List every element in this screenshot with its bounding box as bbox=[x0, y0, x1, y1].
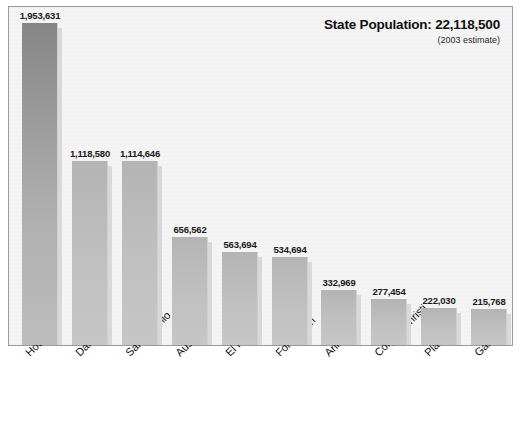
bar-rect[interactable] bbox=[421, 308, 457, 345]
bar-rect[interactable] bbox=[122, 161, 158, 345]
bar-arlington[interactable]: 332,969 bbox=[321, 290, 362, 345]
plot-area: State Population: 22,118,500 (2003 estim… bbox=[8, 6, 513, 346]
bar-value-label: 332,969 bbox=[323, 277, 356, 288]
bar-corpus-christi[interactable]: 277,454 bbox=[371, 299, 412, 345]
bar-value-label: 277,454 bbox=[373, 286, 406, 297]
bar-value-label: 222,030 bbox=[423, 295, 456, 306]
bar-rect[interactable] bbox=[72, 161, 108, 345]
bar-austin[interactable]: 656,562 bbox=[172, 237, 213, 345]
bar-plano[interactable]: 222,030 bbox=[421, 308, 462, 345]
bar-rect[interactable] bbox=[172, 237, 208, 345]
bar-value-label: 1,114,646 bbox=[120, 148, 160, 159]
chart-subtitle: (2003 estimate) bbox=[324, 35, 500, 46]
bar-rect[interactable] bbox=[22, 23, 58, 345]
bar-value-label: 215,768 bbox=[473, 296, 506, 307]
bar-value-label: 1,118,580 bbox=[70, 148, 110, 159]
chart-header: State Population: 22,118,500 (2003 estim… bbox=[324, 17, 500, 46]
bar-fort-worth[interactable]: 534,694 bbox=[272, 257, 313, 345]
bar-houston[interactable]: 1,953,631 bbox=[22, 23, 63, 345]
x-axis-category-labels: HoustonDallasSan AntonioAustinEl PasoFor… bbox=[0, 346, 525, 424]
bar-rect[interactable] bbox=[471, 309, 507, 345]
bar-san-antonio[interactable]: 1,114,646 bbox=[122, 161, 163, 345]
population-bar-chart: State Population: 22,118,500 (2003 estim… bbox=[0, 0, 525, 424]
bar-rect[interactable] bbox=[222, 252, 258, 345]
bar-rect[interactable] bbox=[272, 257, 308, 345]
bar-rect[interactable] bbox=[321, 290, 357, 345]
bar-el-paso[interactable]: 563,694 bbox=[222, 252, 263, 345]
page-title: State Population: 22,118,500 bbox=[324, 17, 500, 33]
bar-value-label: 534,694 bbox=[274, 244, 307, 255]
bar-rect[interactable] bbox=[371, 299, 407, 345]
bar-value-label: 656,562 bbox=[174, 224, 207, 235]
bar-garland[interactable]: 215,768 bbox=[471, 309, 512, 345]
bar-value-label: 563,694 bbox=[224, 239, 257, 250]
bar-dallas[interactable]: 1,118,580 bbox=[72, 161, 113, 345]
bar-value-label: 1,953,631 bbox=[20, 10, 60, 21]
bars-layer: 1,953,6311,118,5801,114,646656,562563,69… bbox=[9, 7, 512, 345]
